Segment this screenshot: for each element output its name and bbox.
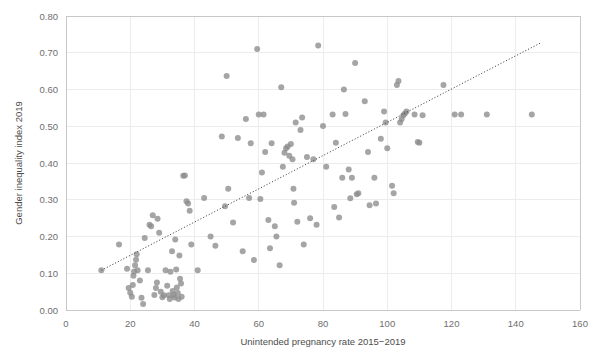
data-point: [154, 279, 160, 285]
data-point: [389, 183, 395, 189]
data-point: [349, 175, 355, 181]
scatter-points: [98, 42, 534, 307]
data-point: [148, 223, 154, 229]
data-point: [254, 46, 260, 52]
data-point: [301, 242, 307, 248]
data-point: [278, 84, 284, 90]
data-point: [371, 175, 377, 181]
data-point: [307, 215, 313, 221]
y-tick-label: 0.20: [40, 231, 59, 242]
data-point: [187, 208, 193, 214]
data-point: [135, 267, 141, 273]
data-point: [288, 141, 294, 147]
data-point: [331, 204, 337, 210]
data-point: [342, 111, 348, 117]
data-point: [178, 281, 184, 287]
x-tick-label: 60: [253, 318, 264, 329]
data-point: [248, 140, 254, 146]
data-point: [208, 234, 214, 240]
data-point: [185, 200, 191, 206]
data-point: [257, 196, 263, 202]
data-point: [132, 262, 138, 268]
data-point: [133, 257, 139, 263]
data-point: [182, 172, 188, 178]
data-point: [299, 114, 305, 120]
data-point: [124, 266, 130, 272]
data-point: [336, 214, 342, 220]
data-point: [365, 149, 371, 155]
data-point: [355, 190, 361, 196]
data-point: [362, 98, 368, 104]
data-point: [261, 111, 267, 117]
data-point: [339, 175, 345, 181]
gridlines: [66, 16, 580, 310]
y-tick-label: 0.00: [40, 305, 59, 316]
data-point: [352, 60, 358, 66]
data-point: [188, 242, 194, 248]
data-point: [294, 219, 300, 225]
data-point: [458, 111, 464, 117]
data-point: [304, 154, 310, 160]
chart-canvas: 0.000.100.200.300.400.500.600.700.80 020…: [0, 0, 596, 359]
data-point: [153, 285, 159, 291]
data-point: [230, 220, 236, 226]
data-point: [412, 111, 418, 117]
data-point: [140, 301, 146, 307]
data-point: [272, 223, 278, 229]
data-point: [262, 149, 268, 155]
x-tick-label: 20: [125, 318, 136, 329]
data-point: [195, 267, 201, 273]
data-point: [137, 278, 143, 284]
y-tick-label: 0.30: [40, 194, 59, 205]
data-point: [280, 164, 286, 170]
data-point: [169, 248, 175, 254]
data-point: [298, 127, 304, 133]
data-point: [420, 112, 426, 118]
data-point: [341, 87, 347, 93]
y-tick-labels: 0.000.100.200.300.400.500.600.700.80: [40, 11, 59, 316]
data-point: [179, 294, 185, 300]
data-point: [240, 248, 246, 254]
data-point: [314, 222, 320, 228]
data-point: [173, 267, 179, 273]
data-point: [330, 111, 336, 117]
data-point: [259, 170, 265, 176]
data-point: [416, 140, 422, 146]
y-tick-label: 0.80: [40, 11, 59, 22]
data-point: [224, 73, 230, 79]
y-tick-label: 0.70: [40, 47, 59, 58]
data-point: [373, 200, 379, 206]
y-axis-title: Gender inequality index 2019: [13, 101, 24, 225]
data-point: [378, 136, 384, 142]
x-tick-label: 40: [189, 318, 200, 329]
y-tick-label: 0.50: [40, 121, 59, 132]
data-point: [164, 283, 170, 289]
x-tick-label: 160: [572, 318, 588, 329]
data-point: [381, 109, 387, 115]
data-point: [129, 294, 135, 300]
data-point: [222, 203, 228, 209]
x-tick-labels: 020406080100120140160: [63, 318, 588, 329]
data-point: [134, 251, 140, 257]
data-point: [142, 235, 148, 241]
data-point: [484, 111, 490, 117]
data-point: [138, 295, 144, 301]
data-point: [225, 186, 231, 192]
data-point: [156, 230, 162, 236]
data-point: [116, 242, 122, 248]
x-axis-title: Unintended pregnancy rate 2015−2019: [240, 336, 405, 347]
y-tick-label: 0.60: [40, 84, 59, 95]
data-point: [277, 262, 283, 268]
data-point: [440, 82, 446, 88]
data-point: [395, 78, 401, 84]
x-tick-label: 0: [63, 318, 68, 329]
data-point: [251, 257, 257, 263]
x-tick-label: 120: [444, 318, 460, 329]
data-point: [151, 292, 157, 298]
data-point: [384, 145, 390, 151]
data-point: [346, 167, 352, 173]
data-point: [347, 195, 353, 201]
data-point: [315, 42, 321, 48]
data-point: [529, 111, 535, 117]
data-point: [333, 140, 339, 146]
